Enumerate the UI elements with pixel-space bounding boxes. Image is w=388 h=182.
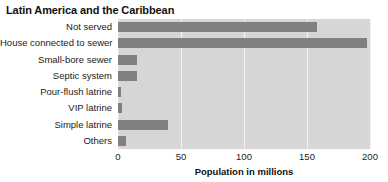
chart-title: Latin America and the Caribbean [6,4,174,16]
bar-row [118,19,370,35]
category-axis-labels: Not servedHouse connected to sewerSmall-… [0,19,114,149]
category-label: Simple latrine [0,117,114,133]
x-tick-label: 100 [236,151,252,162]
x-tick-label: 0 [115,151,120,162]
x-axis-title: Population in millions [118,166,370,177]
bar-row [118,68,370,84]
bar-row [118,117,370,133]
bar [118,136,126,146]
category-label: House connected to sewer [0,35,114,51]
x-tick-label: 200 [362,151,378,162]
bar [118,87,121,97]
bar [118,38,367,48]
bar [118,71,137,81]
category-label: Small-bore sewer [0,52,114,68]
category-label: Not served [0,19,114,35]
bar [118,103,122,113]
category-label: Septic system [0,68,114,84]
category-label: Pour-flush latrine [0,84,114,100]
value-axis-ticks: 050100150200 [118,151,370,165]
bar-series [118,19,370,149]
x-tick-label: 150 [299,151,315,162]
gridline-200 [370,19,371,149]
bar [118,120,168,130]
bar [118,22,317,32]
bar-row [118,52,370,68]
bar-row [118,35,370,51]
bar-row [118,133,370,149]
bar-row [118,100,370,116]
chart-figure: Latin America and the Caribbean Not serv… [0,0,388,182]
x-tick-label: 50 [176,151,187,162]
category-label: Others [0,133,114,149]
plot-area [118,19,370,149]
category-label: VIP latrine [0,100,114,116]
bar [118,55,137,65]
bar-row [118,84,370,100]
